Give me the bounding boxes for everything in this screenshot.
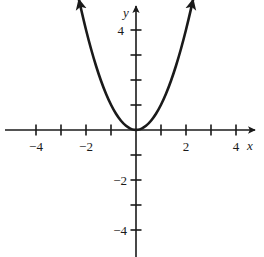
y-tick-label-neg4: −4: [113, 223, 127, 238]
graph-canvas: −4 −2 2 4 x 4 −2 −4: [0, 0, 264, 257]
x-tick-label-pos4: 4: [233, 139, 240, 154]
parabola-graph-figure: −4 −2 2 4 x 4 −2 −4: [0, 0, 264, 257]
x-tick-label-neg4: −4: [29, 139, 43, 154]
y-tick-label-pos4: 4: [118, 23, 125, 38]
x-tick-label-neg2: −2: [79, 139, 93, 154]
x-tick-label-pos2: 2: [183, 139, 190, 154]
x-axis-label: x: [246, 138, 253, 153]
y-tick-label-neg2: −2: [113, 173, 127, 188]
y-axis-label: y: [121, 5, 129, 20]
x-axis-tick-labels: −4 −2 2 4: [29, 139, 240, 154]
